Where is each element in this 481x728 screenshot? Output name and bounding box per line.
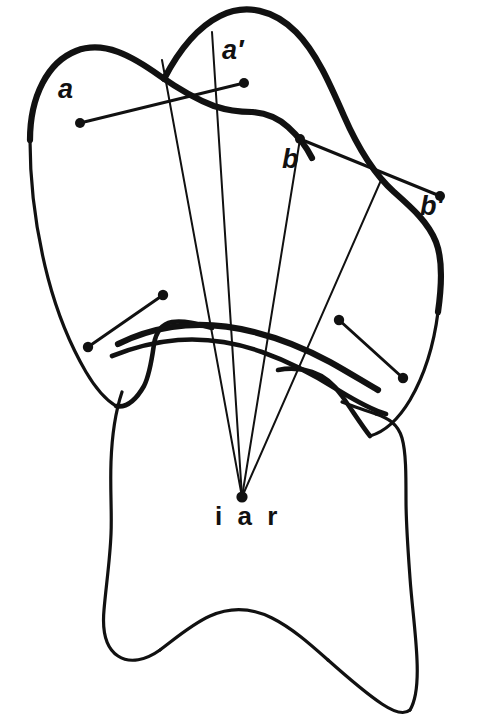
lower-vertebra-inferior-edge [328, 660, 410, 712]
label-a-prime: a′ [222, 37, 244, 64]
label-b-prime: b′ [420, 193, 443, 220]
ray-from-a-prime-to-iar [212, 32, 242, 497]
landmark-dot-right-inferior-upper [334, 315, 344, 325]
label-a: a [58, 76, 73, 103]
figure-canvas: a a′ b b′ i a r [0, 0, 481, 728]
ray-from-b-to-iar [242, 139, 300, 497]
chord-b-to-b-prime [300, 139, 440, 196]
ray-from-a-to-iar [162, 60, 242, 497]
label-b: b [282, 146, 299, 173]
right-superior-lobe-outline [164, 9, 441, 312]
lower-vertebra-left-edge [104, 392, 160, 660]
lower-vertebra-right-edge [376, 414, 417, 710]
chord-a-to-a-prime [80, 83, 244, 123]
landmark-dot-left-inferior-lower [83, 342, 93, 352]
label-iar: i a r [215, 503, 281, 529]
landmark-dot-left-inferior-upper [158, 290, 168, 300]
upper-vertebra-left-inferior-process [116, 321, 212, 406]
landmark-dot-right-inferior-lower [398, 373, 408, 383]
landmark-dot-a-prime [239, 78, 249, 88]
left-superior-lobe-left-edge [30, 140, 116, 406]
lower-vertebra-superior-notch [160, 610, 328, 660]
vertebra-line-drawing [0, 0, 481, 728]
landmark-dot-a [75, 118, 85, 128]
landmark-dot-b [295, 134, 305, 144]
